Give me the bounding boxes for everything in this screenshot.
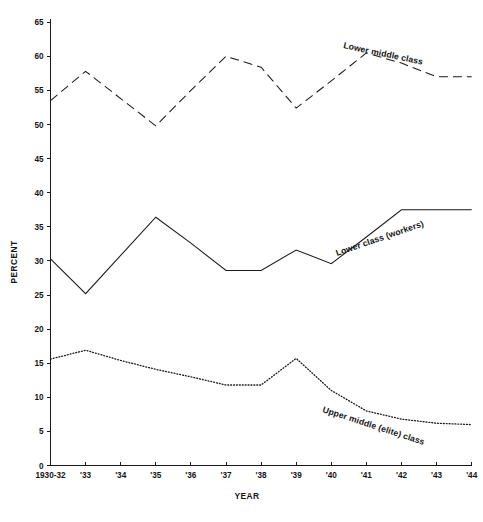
series-label-upper-middle-elite-class: Upper middle (elite) class xyxy=(321,404,426,447)
x-axis-title: YEAR xyxy=(235,491,260,501)
y-tick-label: 35 xyxy=(34,223,44,232)
y-tick-label: 10 xyxy=(34,393,44,402)
y-tick-label: 15 xyxy=(34,359,44,368)
y-tick-label: 0 xyxy=(39,462,44,471)
y-tick-label: 25 xyxy=(34,291,44,300)
y-tick-label: 40 xyxy=(34,189,44,198)
x-tick-label: '43 xyxy=(431,471,443,480)
x-tick-label: '40 xyxy=(326,471,338,480)
chart-container: 05101520253035404550556065 1930-32'33'34… xyxy=(0,0,483,522)
x-tick-label: '38 xyxy=(256,471,268,480)
line-chart: 05101520253035404550556065 1930-32'33'34… xyxy=(0,0,483,522)
series-lines xyxy=(51,53,472,425)
y-tick-label: 45 xyxy=(34,155,44,164)
series-label-lower-middle-class: Lower middle class xyxy=(343,40,425,67)
y-tick-label: 65 xyxy=(34,18,44,27)
x-tick-label: '34 xyxy=(115,471,127,480)
x-tick-label: '36 xyxy=(185,471,197,480)
y-axis-title: PERCENT xyxy=(9,240,19,283)
x-tick-label: '42 xyxy=(396,471,408,480)
y-tick-label: 60 xyxy=(34,52,44,61)
x-tick-label: '41 xyxy=(361,471,373,480)
y-tick-label: 50 xyxy=(34,121,44,130)
y-tick-label: 55 xyxy=(34,86,44,95)
x-tick-label: '39 xyxy=(291,471,303,480)
series-path-upper-middle-elite-class xyxy=(51,350,472,424)
x-tick-label: '33 xyxy=(80,471,92,480)
y-axis-ticks: 05101520253035404550556065 xyxy=(34,18,50,470)
y-tick-label: 5 xyxy=(39,427,44,436)
axes xyxy=(51,19,473,466)
y-tick-label: 20 xyxy=(34,325,44,334)
series-label-lower-class-workers: Lower class (workers) xyxy=(334,218,425,258)
x-axis-ticks: 1930-32'33'34'35'36'37'38'39'40'41'42'43… xyxy=(35,462,477,480)
x-tick-label: '35 xyxy=(150,471,162,480)
x-tick-label: '44 xyxy=(466,471,478,480)
x-tick-label: 1930-32 xyxy=(35,471,65,480)
y-tick-label: 30 xyxy=(34,257,44,266)
x-tick-label: '37 xyxy=(220,471,232,480)
